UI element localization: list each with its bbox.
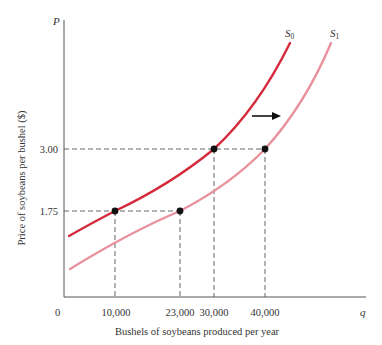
- supply-curve-s1: [70, 43, 331, 269]
- x-tick-30000: 30,000: [200, 307, 229, 318]
- y-axis-symbol: P: [52, 15, 60, 27]
- x-tick-10000: 10,000: [102, 307, 131, 318]
- origin-label: 0: [55, 307, 60, 318]
- point-s0-3-00: [211, 146, 218, 153]
- x-tick-40000: 40,000: [251, 307, 280, 318]
- supply-shift-chart: S0 S1 P q 0 3.00 1.75 10,000 23,000 30,0…: [0, 0, 382, 345]
- point-s1-3-00: [262, 146, 269, 153]
- x-tick-23000: 23,000: [166, 307, 195, 318]
- x-axis-title: Bushels of soybeans produced per year: [115, 326, 280, 337]
- supply-curve-s0: [69, 43, 290, 236]
- x-axis-symbol: q: [360, 306, 366, 318]
- point-s0-1-75: [112, 208, 119, 215]
- shift-right-arrow-icon: [252, 112, 281, 120]
- y-axis-title: Price of soybeans per bushel ($): [16, 110, 28, 246]
- s0-label: S0: [285, 27, 295, 41]
- data-points: [112, 146, 269, 215]
- y-tick-3-00: 3.00: [40, 144, 58, 155]
- s1-label: S1: [330, 27, 340, 41]
- point-s1-1-75: [177, 208, 184, 215]
- y-tick-1-75: 1.75: [40, 206, 58, 217]
